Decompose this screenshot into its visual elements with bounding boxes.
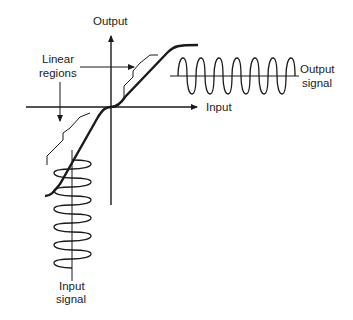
input-signal-label-line1: Input	[59, 280, 85, 292]
x-axis-label: Input	[206, 101, 232, 113]
linear-regions-label-line1: Linear	[42, 53, 74, 65]
linear-regions-label-line2: regions	[39, 67, 77, 79]
input-signal-label-line2: signal	[56, 293, 86, 305]
amplifier-transfer-diagram: Linear regions Output signal Input signa…	[0, 0, 353, 320]
linear-region-bracket-lower	[47, 113, 90, 165]
y-axis-label: Output	[93, 15, 128, 27]
output-signal-label-line1: Output	[300, 63, 335, 75]
output-signal-label-line2: signal	[302, 77, 332, 89]
